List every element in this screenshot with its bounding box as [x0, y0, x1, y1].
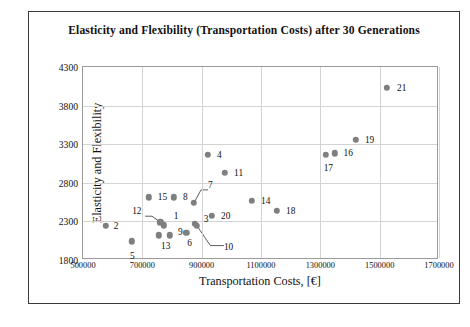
x-gridline [202, 67, 203, 258]
scatter-point [191, 200, 197, 206]
x-axis-tick-label: 1100000 [246, 261, 275, 270]
x-gridline [320, 67, 321, 258]
scatter-point [146, 194, 152, 200]
scatter-point [331, 150, 337, 156]
scatter-point [129, 238, 135, 244]
y-axis-title: Elasticity and Flexibility [90, 102, 105, 223]
point-label: 1 [174, 211, 179, 221]
point-label: 16 [344, 148, 353, 158]
x-axis-tick-label: 1300000 [306, 261, 335, 270]
scatter-point [205, 152, 211, 158]
point-label: 9 [178, 227, 183, 237]
x-gridline [142, 67, 143, 258]
point-label: 15 [158, 192, 167, 202]
y-axis-tick-label: 3800 [59, 100, 78, 111]
y-gridline [83, 221, 437, 222]
x-axis-tick-label: 1500000 [365, 261, 394, 270]
point-label: 20 [221, 211, 230, 221]
y-gridline [83, 183, 437, 184]
figure-caption [8, 314, 462, 325]
y-gridline [83, 144, 437, 145]
scatter-point [167, 232, 173, 238]
x-axis-tick-label: 700000 [130, 261, 155, 270]
scatter-point [103, 223, 109, 229]
point-label: 6 [187, 238, 192, 248]
scatter-point [156, 232, 162, 238]
point-label: 4 [217, 150, 222, 160]
scatter-point [353, 137, 359, 143]
x-gridline [380, 67, 381, 258]
point-label: 12 [132, 206, 141, 216]
y-axis-tick-label: 1800 [59, 255, 78, 266]
point-label: 19 [365, 135, 374, 145]
scatter-point [222, 170, 228, 176]
point-label: 7 [208, 180, 213, 190]
point-label: 21 [397, 83, 406, 93]
point-label: 5 [130, 251, 135, 261]
y-axis-tick-label: 4300 [59, 62, 78, 73]
scatter-point [209, 212, 215, 218]
scatter-point [274, 208, 280, 214]
point-label: 13 [161, 241, 170, 251]
scatter-point [194, 222, 200, 228]
figure-root: Elasticity and Flexibility (Transportati… [0, 0, 470, 327]
point-label: 2 [114, 221, 119, 231]
scatter-point [171, 194, 177, 200]
y-gridline [83, 106, 437, 107]
x-axis-tick-label: 1700000 [424, 261, 453, 270]
point-label: 3 [204, 214, 209, 224]
scatter-point [183, 229, 189, 235]
point-label: 14 [261, 196, 270, 206]
plot-area: Elasticity and Flexibility Transportatio… [82, 66, 438, 259]
y-axis-tick-label: 2800 [59, 177, 78, 188]
scatter-point [249, 198, 255, 204]
figure-frame: Elasticity and Flexibility (Transportati… [28, 11, 460, 304]
point-label: 18 [286, 206, 295, 216]
x-gridline [439, 67, 440, 258]
y-axis-tick-label: 3300 [59, 139, 78, 150]
x-axis-tick-label: 900000 [189, 261, 214, 270]
point-label: 11 [234, 168, 243, 178]
scatter-point [322, 151, 328, 157]
point-label: 17 [324, 163, 333, 173]
x-gridline [261, 67, 262, 258]
point-label: 10 [224, 242, 233, 252]
point-label: 8 [183, 192, 188, 202]
x-axis-title: Transportation Costs, [€] [83, 274, 437, 289]
scatter-point [384, 85, 390, 91]
chart-title: Elasticity and Flexibility (Transportati… [29, 24, 459, 37]
y-axis-tick-label: 2300 [59, 216, 78, 227]
